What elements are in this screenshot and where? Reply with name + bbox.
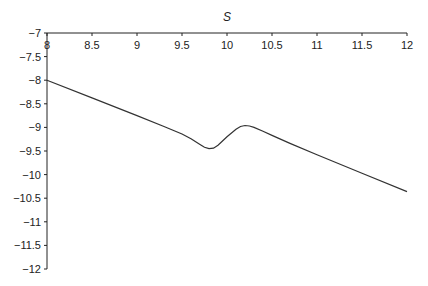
x-tick-label: 12 [401,39,413,51]
y-tick-label: −9.5 [19,145,41,157]
y-tick-label: −8 [28,74,41,86]
x-tick-label: 10.5 [261,39,282,51]
y-tick-label: −7.5 [19,51,41,63]
x-tick-label: 11 [311,39,322,51]
y-axis: −7−7.5−8−8.5−9−9.5−10−10.5−11−11.5−12 [13,27,47,275]
x-axis: 88.599.51010.51111.512 [44,33,413,51]
y-tick-label: −12 [22,263,41,275]
y-tick-label: −11 [23,216,41,228]
y-tick-label: −10.5 [13,192,41,204]
x-tick-label: 9.5 [174,39,189,51]
data-line [47,80,407,191]
y-tick-label: −10 [22,169,41,181]
y-tick-label: −8.5 [19,98,41,110]
x-tick-label: 11.5 [352,39,373,51]
x-tick-label: 9 [134,39,140,51]
chart-title: S [223,10,231,24]
y-tick-label: −7 [28,27,41,39]
line-chart: S 88.599.51010.51111.512 −7−7.5−8−8.5−9−… [0,0,428,286]
y-tick-label: −11.5 [14,239,41,251]
x-tick-label: 8.5 [84,39,99,51]
x-tick-label: 10 [221,39,233,51]
y-tick-label: −9 [28,121,41,133]
